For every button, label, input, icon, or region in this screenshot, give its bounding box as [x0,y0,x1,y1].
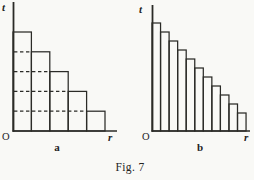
panel-a-letter: a [50,142,64,153]
figure-page: t O r a t O r b Fig. 7 [0,0,254,180]
panel-b-origin-label: O [142,132,150,143]
step-diagrams-drawing [0,0,254,180]
panel-a-y-axis-label: t [2,2,5,13]
panel-a-x-axis-label: r [108,132,112,143]
panel-b-y-axis-label: t [139,4,142,15]
panel-b-letter: b [193,142,207,153]
figure-caption: Fig. 7 [3,161,254,173]
panel-a-origin-label: O [2,132,10,143]
panel-b-x-axis-label: r [244,132,248,143]
